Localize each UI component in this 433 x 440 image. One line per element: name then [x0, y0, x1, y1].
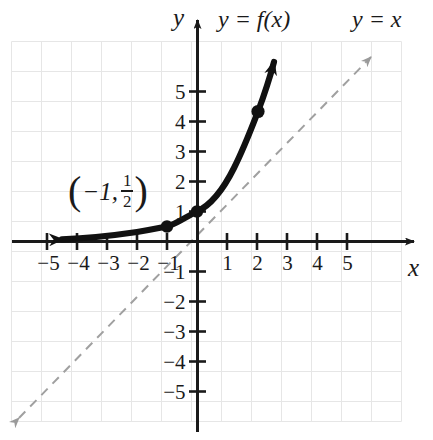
- exponential-function-graph: y x y = f(x) y = x ( −1, 1 2 ) −5−4−3−2−…: [0, 0, 433, 440]
- x-tick-label: −2: [126, 253, 152, 274]
- point-0-1: [191, 205, 203, 217]
- y-tick-label: −2: [160, 292, 186, 313]
- fraction-denominator: 2: [121, 193, 134, 210]
- fraction-numerator: 1: [121, 172, 134, 189]
- point-x-value: −1,: [82, 179, 118, 204]
- open-paren: (: [68, 175, 81, 208]
- x-tick-label: 1: [215, 253, 241, 274]
- y-axis-label: y: [173, 5, 184, 30]
- x-tick-label: 4: [305, 253, 331, 274]
- x-tick-label: −3: [96, 253, 122, 274]
- graph-canvas: [0, 0, 433, 440]
- fraction-one-half: 1 2: [121, 172, 134, 210]
- x-tick-label: −5: [36, 253, 62, 274]
- y-tick-label: 2: [160, 172, 186, 193]
- point-2-4: [251, 105, 264, 118]
- x-axis-label: x: [408, 255, 419, 280]
- close-paren: ): [134, 175, 147, 208]
- y-tick-label: −5: [160, 382, 186, 403]
- point-annotation-minus1-half: ( −1, 1 2 ): [68, 172, 148, 210]
- y-tick-label: −3: [160, 322, 186, 343]
- y-tick-label: 5: [160, 82, 186, 103]
- x-tick-label: 2: [245, 253, 271, 274]
- x-tick-label: 5: [335, 253, 361, 274]
- y-tick-label: −4: [160, 352, 186, 373]
- x-tick-label: 3: [275, 253, 301, 274]
- grid-lines: [12, 42, 402, 422]
- y-tick-label: −1: [160, 262, 186, 283]
- y-tick-label: 3: [160, 142, 186, 163]
- x-tick-label: −4: [66, 253, 92, 274]
- identity-line-label: y = x: [352, 7, 402, 31]
- y-tick-label: 1: [160, 202, 186, 223]
- function-label: y = f(x): [218, 7, 290, 31]
- y-tick-label: 4: [160, 112, 186, 133]
